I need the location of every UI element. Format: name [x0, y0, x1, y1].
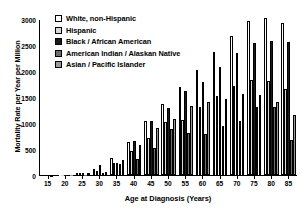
- y-axis-tick-labels: 050010001500200025003000: [14, 20, 36, 176]
- x-axis-tick-35: 35: [113, 180, 120, 187]
- x-tick-mark: [134, 176, 135, 179]
- legend-swatch-icon: [55, 38, 62, 45]
- legend-item-3: American Indian / Alaskan Native: [55, 49, 180, 59]
- x-axis-tick-75: 75: [250, 180, 257, 187]
- x-axis-tick-labels: 152025303540455055606570758085: [39, 176, 297, 192]
- x-axis-tick-30: 30: [96, 180, 103, 187]
- x-axis-tick-60: 60: [199, 180, 206, 187]
- bar: [139, 145, 142, 175]
- x-tick-mark: [237, 176, 238, 179]
- bar: [87, 173, 90, 175]
- bar: [207, 102, 210, 175]
- legend-swatch-icon: [55, 27, 62, 34]
- bar: [173, 119, 176, 175]
- legend-item-2: Black / African American: [55, 37, 180, 47]
- y-axis-tick-2000: 2000: [14, 69, 36, 76]
- bar-group-85: [280, 20, 297, 175]
- y-axis-tick-0: 0: [14, 173, 36, 180]
- legend-item-4: Asian / Pacific Islander: [55, 60, 180, 70]
- bar: [190, 106, 193, 175]
- x-tick-mark: [65, 176, 66, 179]
- legend-item-0: White, non-Hispanic: [55, 14, 180, 24]
- x-tick-mark: [271, 176, 272, 179]
- bar-group-65: [211, 20, 228, 175]
- y-axis-tick-2500: 2500: [14, 43, 36, 50]
- y-axis-tick-3000: 3000: [14, 17, 36, 24]
- bar-group-70: [229, 20, 246, 175]
- x-tick-mark: [254, 176, 255, 179]
- legend-label: Black / African American: [66, 37, 151, 46]
- y-axis-tick-1500: 1500: [14, 95, 36, 102]
- x-tick-mark: [202, 176, 203, 179]
- x-axis-tick-15: 15: [44, 180, 51, 187]
- x-axis-tick-85: 85: [285, 180, 292, 187]
- bar: [225, 99, 228, 175]
- x-tick-mark: [220, 176, 221, 179]
- bar: [105, 172, 108, 175]
- y-axis-tick-1000: 1000: [14, 121, 36, 128]
- x-tick-mark: [48, 176, 49, 179]
- x-tick-mark: [99, 176, 100, 179]
- x-tick-mark: [185, 176, 186, 179]
- x-axis-tick-70: 70: [233, 180, 240, 187]
- x-axis-title: Age at Diagnosis (Years): [39, 194, 297, 203]
- x-tick-mark: [116, 176, 117, 179]
- bar: [293, 115, 296, 175]
- mortality-rate-bar-chart: Mortality Rate per Year per Million 0500…: [0, 0, 306, 218]
- bar-group-60: [194, 20, 211, 175]
- legend-swatch-icon: [55, 50, 62, 57]
- bar: [122, 160, 125, 175]
- x-axis-tick-65: 65: [216, 180, 223, 187]
- bar: [276, 102, 279, 175]
- legend-swatch-icon: [55, 15, 62, 22]
- x-axis-tick-20: 20: [61, 180, 68, 187]
- bar: [156, 128, 159, 175]
- legend-label: White, non-Hispanic: [66, 14, 136, 23]
- legend-label: American Indian / Alaskan Native: [66, 49, 180, 58]
- x-axis-tick-40: 40: [130, 180, 137, 187]
- x-axis-tick-80: 80: [268, 180, 275, 187]
- bar: [242, 94, 245, 175]
- x-axis-tick-25: 25: [78, 180, 85, 187]
- legend-label: Asian / Pacific Islander: [66, 60, 145, 69]
- x-tick-mark: [151, 176, 152, 179]
- x-axis-tick-55: 55: [182, 180, 189, 187]
- x-tick-mark: [82, 176, 83, 179]
- bar-group-80: [263, 20, 280, 175]
- x-axis-tick-45: 45: [147, 180, 154, 187]
- x-tick-mark: [288, 176, 289, 179]
- legend: White, non-HispanicHispanicBlack / Afric…: [55, 14, 180, 70]
- legend-item-1: Hispanic: [55, 26, 180, 36]
- legend-swatch-icon: [55, 61, 62, 68]
- legend-label: Hispanic: [66, 26, 96, 35]
- bar: [259, 95, 262, 175]
- x-tick-mark: [168, 176, 169, 179]
- y-axis-tick-500: 500: [14, 147, 36, 154]
- x-axis-tick-50: 50: [164, 180, 171, 187]
- bar-group-75: [246, 20, 263, 175]
